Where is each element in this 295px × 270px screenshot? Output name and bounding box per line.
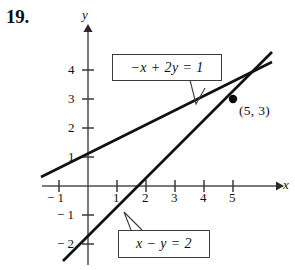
intersection-point-dot <box>229 95 237 103</box>
x-tick-label-5: 5 <box>229 190 236 206</box>
x-axis-label: x <box>283 177 289 193</box>
equation-callout-line-2: x − y = 2 <box>118 230 210 258</box>
y-axis <box>82 24 94 265</box>
y-axis-label: y <box>82 7 88 23</box>
x-tick-label-1: 1 <box>113 190 120 206</box>
x-tick-label-3: 3 <box>171 190 178 206</box>
figure-container: 19. <box>0 0 295 270</box>
x-tick-label-2: 2 <box>142 190 149 206</box>
y-tick-label-2: 2 <box>68 120 75 136</box>
intersection-point-label: (5, 3) <box>239 103 270 119</box>
y-tick-label-3: 3 <box>68 91 75 107</box>
x-tick-label-neg1: − 1 <box>47 190 64 206</box>
x-tick-label-4: 4 <box>200 190 207 206</box>
y-tick-label-1: 1 <box>68 149 75 165</box>
y-tick-label-4: 4 <box>68 62 75 78</box>
callout-leader-lower <box>124 212 142 230</box>
equation-text-line-2: x − y = 2 <box>136 236 192 252</box>
y-tick-label-neg1: − 1 <box>57 207 74 223</box>
equation-callout-line-1: −x + 2y = 1 <box>112 54 222 81</box>
x-axis <box>42 180 284 192</box>
y-tick-label-neg2: − 2 <box>57 236 74 252</box>
equation-text-line-1: −x + 2y = 1 <box>130 60 203 76</box>
